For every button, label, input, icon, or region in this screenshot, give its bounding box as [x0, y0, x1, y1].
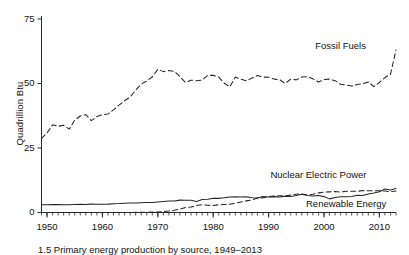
- y-tick-label: 50: [0, 77, 35, 88]
- x-tick-label: 1960: [72, 221, 132, 232]
- x-tick-label: 1980: [183, 221, 243, 232]
- y-axis-ticks: [38, 19, 42, 213]
- y-tick-label: 75: [0, 13, 35, 24]
- x-tick-label: 2000: [294, 221, 354, 232]
- y-tick-label: 25: [0, 142, 35, 153]
- figure-caption: 1.5 Primary energy production by source,…: [38, 244, 262, 255]
- series-annotation: Nuclear Electric Power: [270, 169, 366, 180]
- y-tick-label: 0: [0, 206, 35, 217]
- x-tick-label: 2010: [349, 221, 409, 232]
- data-series-group: [42, 50, 397, 213]
- x-tick-label: 1950: [17, 221, 77, 232]
- x-tick-label: 1990: [239, 221, 299, 232]
- series-annotation: Fossil Fuels: [315, 40, 366, 51]
- series-annotation: Renewable Energy: [306, 198, 386, 209]
- series-line-fossil-fuels: [42, 50, 397, 138]
- y-axis-title: Quadrillion Btu: [14, 54, 25, 174]
- x-tick-label: 1970: [128, 221, 188, 232]
